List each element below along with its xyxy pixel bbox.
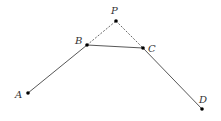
label-a: A [14,89,22,100]
point-c [141,46,145,50]
point-b [85,43,89,47]
point-a [26,91,30,95]
segment-ab [28,45,87,93]
segment-pc [116,21,143,48]
point-p [114,19,118,23]
label-c: C [148,43,156,54]
point-d [200,107,204,111]
segment-bp [87,21,116,45]
segment-bc [87,45,143,48]
label-b: B [74,35,82,46]
points [26,19,204,111]
label-d: D [198,94,207,105]
segments [28,21,202,109]
point-labels: ABPCD [14,5,207,105]
segment-cd [143,48,202,109]
label-p: P [110,5,118,16]
geometry-diagram: ABPCD [0,0,221,121]
